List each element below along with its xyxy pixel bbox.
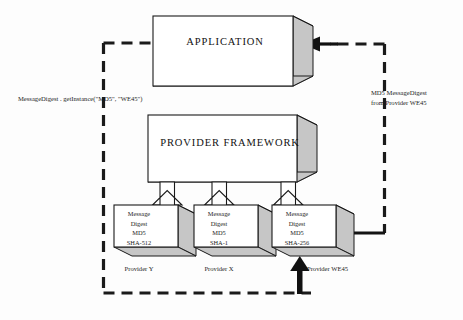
application-box-title: APPLICATION [155, 36, 295, 47]
provider-0-line2: Digest [131, 220, 148, 227]
return-flow-label-line1: MD5 MessageDigest [371, 89, 427, 96]
provider-2-line4: SHA-256 [285, 239, 310, 246]
provider-box-0-text: Message Digest MD5 SHA-512 [113, 209, 165, 247]
provider-0-line3: MD5 [132, 229, 146, 236]
provider-2-line3: MD5 [290, 229, 304, 236]
provider-1-caption: Provider X [186, 265, 252, 272]
return-flow-label: MD5 MessageDigestfrom Provider WE45 [371, 88, 427, 107]
provider-1-line2: Digest [211, 220, 228, 227]
solid-up-arrow-into-provider-we45 [290, 256, 309, 294]
provider-1-line4: SHA-1 [210, 239, 228, 246]
hollow-up-arrow-provider-y [153, 182, 183, 205]
provider-2-line1: Message [286, 210, 308, 217]
provider-0-line1: Message [128, 210, 150, 217]
provider-1-line1: Message [208, 210, 230, 217]
hollow-up-arrow-provider-x [205, 182, 235, 205]
provider-2-line2: Digest [289, 220, 306, 227]
application-box [153, 16, 313, 86]
return-flow-label-line2: from Provider WE45 [371, 99, 427, 106]
provider-framework-box-title: PROVIDER FRAMEWORK [150, 137, 310, 148]
diagram-canvas: APPLICATION PROVIDER FRAMEWORK MessageDi… [0, 0, 463, 320]
provider-framework-box [148, 115, 317, 182]
provider-1-line3: MD5 [212, 229, 226, 236]
provider-box-1-text: Message Digest MD5 SHA-1 [193, 209, 245, 247]
provider-0-line4: SHA-512 [127, 239, 152, 246]
call-flow-label: MessageDigest . getInstance("MD5", "WE45… [18, 95, 142, 103]
provider-box-2-text: Message Digest MD5 SHA-256 [271, 209, 323, 247]
diagram-vector-layer [0, 0, 463, 320]
hollow-up-arrow-provider-we45 [274, 182, 304, 205]
provider-0-caption: Provider Y [106, 265, 172, 272]
provider-2-caption: Provider WE45 [307, 265, 377, 272]
